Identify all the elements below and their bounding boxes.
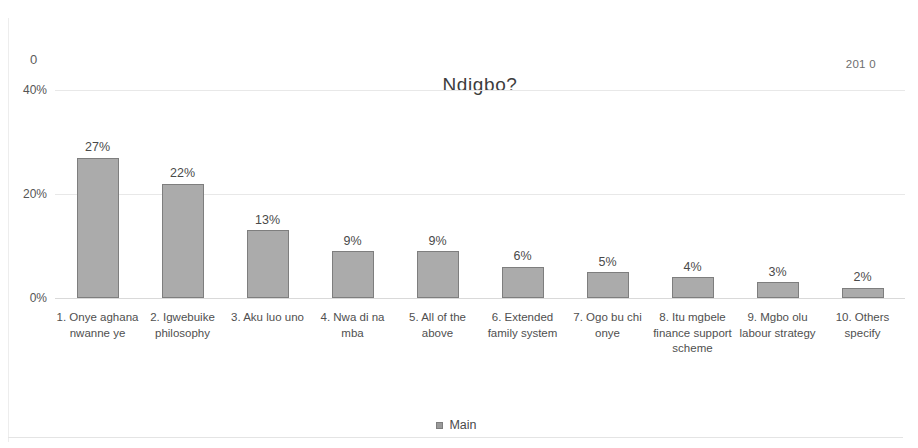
x-axis-category-label: 2. Igwebuike philosophy xyxy=(140,310,225,341)
y-axis-tick-20: 20% xyxy=(23,187,47,201)
legend-swatch-main xyxy=(436,422,443,429)
bar-slot: 27% xyxy=(55,90,140,298)
x-axis-category-label: 4. Nwa di na mba xyxy=(310,310,395,341)
x-axis-category-label: 5. All of the above xyxy=(395,310,480,341)
page-border-bottom xyxy=(8,437,903,438)
bar-slot: 9% xyxy=(310,90,395,298)
y-axis-tick-40: 40% xyxy=(23,83,47,97)
bar-value-label: 22% xyxy=(170,167,195,180)
bar-slot: 6% xyxy=(480,90,565,298)
x-axis-category-label: 1. Onye aghana nwanne ye xyxy=(55,310,140,341)
bar-slot: 13% xyxy=(225,90,310,298)
chart-legend: Main xyxy=(8,418,905,432)
x-axis-category-label: 10. Others specify xyxy=(820,310,905,341)
bar[interactable] xyxy=(757,282,799,298)
bar-value-label: 3% xyxy=(768,266,786,279)
bar[interactable] xyxy=(77,158,119,298)
bar[interactable] xyxy=(162,184,204,298)
bar-value-label: 9% xyxy=(343,235,361,248)
header-fragment-right: 201 0 xyxy=(846,58,876,70)
plot-area: Ndigbo? 40% 20% 0% 27%22%13%9%9%6%5%4%3%… xyxy=(55,90,905,298)
x-axis-category-label: 9. Mgbo olu labour strategy xyxy=(735,310,820,341)
bar-value-label: 4% xyxy=(683,261,701,274)
bar-slot: 5% xyxy=(565,90,650,298)
x-axis-category-label: 3. Aku luo uno xyxy=(225,310,310,326)
bar-value-label: 13% xyxy=(255,214,280,227)
legend-label-main: Main xyxy=(449,418,476,432)
bar-value-label: 9% xyxy=(428,235,446,248)
bar-chart: Ndigbo? 40% 20% 0% 27%22%13%9%9%6%5%4%3%… xyxy=(8,78,905,408)
bar-slot: 2% xyxy=(820,90,905,298)
bar[interactable] xyxy=(417,251,459,298)
x-axis-category-label: 7. Ogo bu chi onye xyxy=(565,310,650,341)
x-axis-line xyxy=(55,298,905,299)
bar-slot: 9% xyxy=(395,90,480,298)
bar-slot: 22% xyxy=(140,90,225,298)
header-fragment-left: 0 xyxy=(30,52,38,67)
bar-group: 27%22%13%9%9%6%5%4%3%2% xyxy=(55,90,905,298)
bar-slot: 3% xyxy=(735,90,820,298)
x-axis-category-label: 6. Extended family system xyxy=(480,310,565,341)
bar-value-label: 5% xyxy=(598,256,616,269)
bar-value-label: 27% xyxy=(85,141,110,154)
bar[interactable] xyxy=(332,251,374,298)
bar[interactable] xyxy=(672,277,714,298)
bar[interactable] xyxy=(587,272,629,298)
bar[interactable] xyxy=(247,230,289,298)
bar[interactable] xyxy=(502,267,544,298)
x-axis-category-label: 8. Itu mgbele finance support scheme xyxy=(650,310,735,357)
bar-slot: 4% xyxy=(650,90,735,298)
bar[interactable] xyxy=(842,288,884,298)
y-axis-tick-0: 0% xyxy=(30,291,47,305)
bar-value-label: 6% xyxy=(513,250,531,263)
bar-value-label: 2% xyxy=(853,271,871,284)
x-axis-category-labels: 1. Onye aghana nwanne ye2. Igwebuike phi… xyxy=(55,310,905,357)
